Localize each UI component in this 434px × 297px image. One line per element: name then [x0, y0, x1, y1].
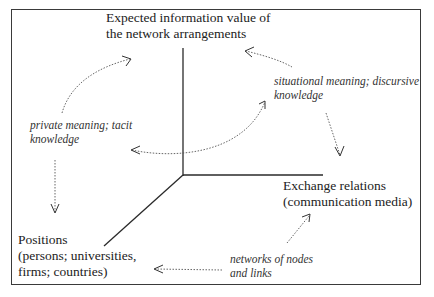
networks-line1: networks of nodes [230, 253, 313, 267]
private-meaning-annotation: private meaning; tacit knowledge [30, 119, 132, 147]
private-meaning-line1: private meaning; tacit [30, 119, 132, 133]
horizontal-axis-label: Exchange relations (communication media) [283, 178, 412, 210]
horizontal-axis-label-line1: Exchange relations [283, 178, 412, 194]
diagonal-axis-label-line1: Positions [18, 232, 136, 248]
diagonal-axis-label: Positions (persons; universities, firms;… [18, 232, 136, 281]
arrow-private-to-value [62, 59, 130, 113]
arrowhead-icon [302, 214, 310, 222]
situational-meaning-line2: knowledge [274, 89, 419, 103]
networks-annotation: networks of nodes and links [230, 253, 313, 281]
arrowhead-icon [335, 146, 344, 156]
situational-meaning-line1: situational meaning; discursive [274, 75, 419, 89]
networks-line2: and links [230, 267, 313, 281]
vertical-axis-label: Expected information value of the networ… [106, 10, 271, 42]
arrow-situational-to-value [246, 51, 292, 67]
private-meaning-line2: knowledge [30, 133, 132, 147]
arrow-networks-to-exchange [287, 216, 309, 243]
vertical-axis-label-line1: Expected information value of [106, 10, 271, 26]
arrowhead-icon [259, 101, 265, 109]
arrow-private-situational [132, 102, 265, 154]
arrow-situational-to-exchange [326, 113, 340, 155]
vertical-axis-label-line2: the network arrangements [106, 26, 271, 42]
arrow-networks-to-positions [155, 269, 222, 270]
situational-meaning-annotation: situational meaning; discursive knowledg… [274, 75, 419, 103]
horizontal-axis-label-line2: (communication media) [283, 194, 412, 210]
diagonal-axis-label-line2: (persons; universities, [18, 248, 136, 264]
diagonal-axis-label-line3: firms; countries) [18, 264, 136, 280]
